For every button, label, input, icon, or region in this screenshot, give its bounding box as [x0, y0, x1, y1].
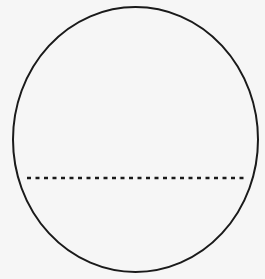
diagram-canvas	[0, 0, 265, 279]
diagram-svg	[0, 0, 265, 279]
outer-circle	[13, 7, 258, 272]
